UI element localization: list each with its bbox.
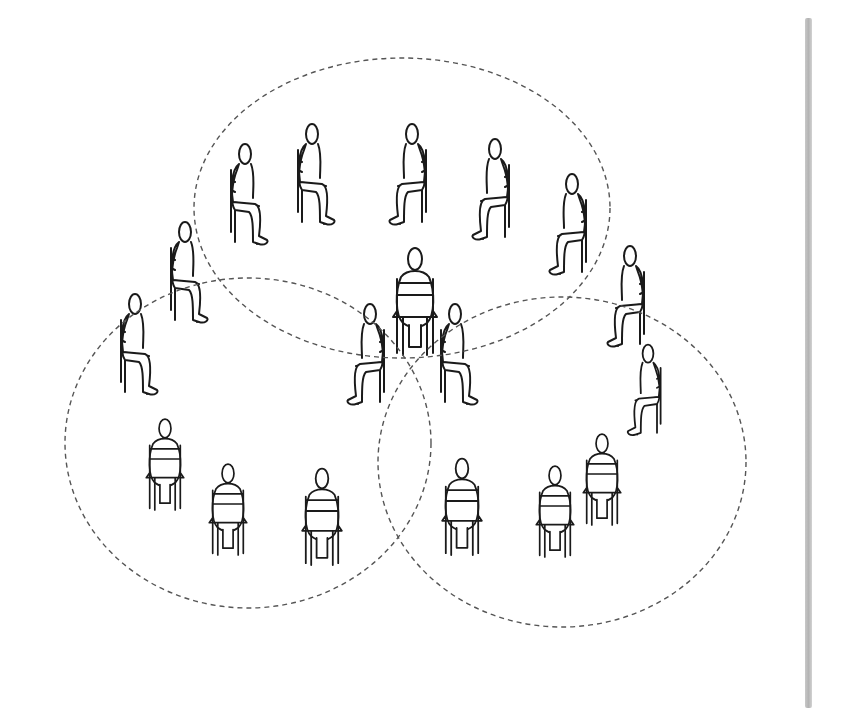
seated-person-side-view xyxy=(549,174,586,275)
seated-person-back-view xyxy=(209,464,246,555)
seated-person-side-view xyxy=(121,294,158,395)
scrollbar[interactable] xyxy=(805,18,812,708)
seated-person-side-view xyxy=(171,222,208,323)
seated-person-side-view xyxy=(231,144,268,245)
seated-person-side-view xyxy=(298,124,335,225)
seated-person-side-view xyxy=(389,124,426,225)
seated-person-side-view xyxy=(472,139,509,240)
seated-person-back-view xyxy=(393,248,437,355)
group-circles-illustration xyxy=(0,0,844,708)
seated-person-back-view xyxy=(536,466,573,557)
seated-person-side-view xyxy=(347,304,384,405)
illustration-canvas xyxy=(0,0,844,708)
seated-person-side-view xyxy=(628,345,661,435)
dashed-circle-left-group xyxy=(65,278,431,608)
seated-person-back-view xyxy=(442,459,482,555)
seated-person-back-view xyxy=(302,469,342,565)
seated-person-back-view xyxy=(583,434,620,525)
seated-person-back-view xyxy=(146,419,183,510)
seated-person-side-view xyxy=(607,246,644,347)
